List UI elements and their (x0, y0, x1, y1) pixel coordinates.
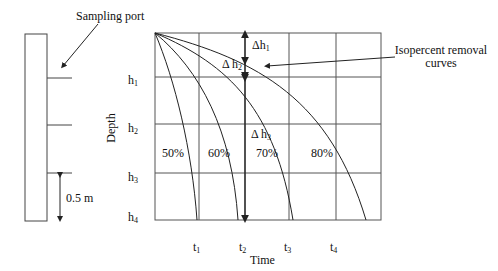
spacing-label: 0.5 m (66, 192, 93, 204)
annotation-line1: Isopercent removal (389, 44, 493, 56)
settling-column (25, 34, 47, 221)
time-tick-t1: t1 (193, 241, 200, 255)
depth-tick-h3: h3 (128, 171, 138, 185)
delta-h1-label: Δh1 (252, 39, 270, 53)
time-tick-t4: t4 (330, 241, 337, 255)
time-tick-t3: t3 (284, 241, 291, 255)
chart-grid (155, 33, 381, 220)
y-axis-label: Depth (105, 113, 117, 142)
sampling-port-label: Sampling port (76, 10, 144, 22)
curve-label-50: 50% (162, 147, 184, 159)
depth-tick-h2: h2 (128, 122, 138, 136)
settling-column-diagram (0, 0, 498, 271)
time-tick-t2: t2 (239, 241, 246, 255)
curve-label-60: 60% (208, 147, 230, 159)
delta-h3-label: Δ h3 (251, 128, 271, 142)
delta-h2-label: Δ h2 (222, 58, 242, 72)
sampling-port-pointer (63, 24, 98, 66)
curve-label-80: 80% (311, 147, 333, 159)
depth-tick-h1: h1 (128, 74, 138, 88)
isopercent-annotation: Isopercent removal curves (389, 44, 493, 69)
annotation-line2: curves (389, 57, 493, 69)
depth-tick-h4: h4 (128, 211, 138, 225)
curve-label-70: 70% (256, 147, 278, 159)
annotation-pointer (267, 57, 395, 66)
curve-50 (155, 33, 197, 220)
x-axis-label: Time (250, 254, 275, 266)
